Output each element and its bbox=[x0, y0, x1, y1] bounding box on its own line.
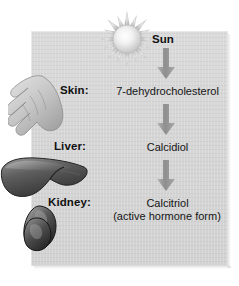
liver-icon bbox=[0, 155, 90, 200]
compound-kidney: Calcitriol bbox=[110, 197, 225, 209]
arrow-liver-to-kidney bbox=[156, 160, 176, 192]
compound-skin: 7-dehydrocholesterol bbox=[110, 85, 225, 97]
sun-icon bbox=[96, 9, 158, 69]
organ-label-liver: Liver: bbox=[54, 140, 86, 152]
sun-label: Sun bbox=[152, 33, 174, 45]
arrow-sun-to-skin bbox=[156, 48, 176, 80]
arrow-skin-to-liver bbox=[156, 104, 176, 136]
compound-liver: Calcidiol bbox=[110, 141, 225, 153]
hand-icon bbox=[8, 70, 76, 148]
compound-kidney-subtext: (active hormone form) bbox=[103, 210, 231, 222]
kidney-icon bbox=[14, 202, 72, 260]
panel-shadow-right bbox=[228, 34, 231, 268]
diagram-canvas: Sun Skin: 7-dehydrocholestero bbox=[0, 0, 239, 286]
panel-shadow-bottom bbox=[34, 266, 231, 269]
organ-label-skin: Skin: bbox=[60, 84, 89, 96]
organ-label-kidney: Kidney: bbox=[48, 196, 91, 208]
